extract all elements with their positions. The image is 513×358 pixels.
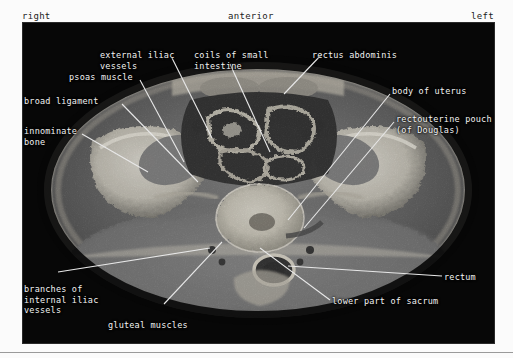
leader-broad-ligament <box>122 104 198 182</box>
leader-lower-part-of-sacrum <box>260 248 330 300</box>
label-psoas-muscle: psoas muscle <box>69 72 133 83</box>
leader-branches-internal-iliac <box>58 248 210 272</box>
page-divider-rule <box>0 352 513 353</box>
label-broad-ligament: broad ligament <box>24 96 98 107</box>
label-gluteal-muscles: gluteal muscles <box>108 320 188 331</box>
label-lower-part-of-sacrum: lower part of sacrum <box>332 296 438 307</box>
orientation-label-anterior: anterior <box>228 11 274 21</box>
figure-page: right anterior left <box>0 0 513 358</box>
label-external-iliac-vessels: external iliac vessels <box>100 50 174 71</box>
label-body-of-uterus: body of uterus <box>392 86 466 97</box>
label-branches-internal-iliac: branches of internal iliac vessels <box>24 284 98 316</box>
label-rectum: rectum <box>444 272 476 283</box>
mri-plate: external iliac vessels coils of small in… <box>22 22 495 344</box>
leader-gluteal-muscles <box>164 242 222 304</box>
leader-body-of-uterus <box>288 94 390 220</box>
leader-coils-of-small-intestine <box>230 64 270 152</box>
orientation-label-right: right <box>22 11 51 21</box>
leader-rectum <box>288 266 442 276</box>
leader-innominate-bone <box>82 134 148 172</box>
label-innominate-bone: innominate bone <box>24 126 77 147</box>
label-rectouterine-pouch: rectouterine pouch (of Douglas) <box>396 114 492 135</box>
label-coils-of-small-intestine: coils of small intestine <box>194 50 268 71</box>
leader-rectouterine-pouch <box>304 122 394 228</box>
leader-psoas-muscle <box>140 80 184 162</box>
orientation-label-left: left <box>471 11 494 21</box>
label-rectus-abdominis: rectus abdominis <box>312 50 397 61</box>
